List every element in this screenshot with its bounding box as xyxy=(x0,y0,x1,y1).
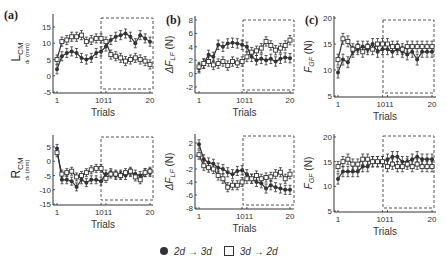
y-tick-label: 2 xyxy=(189,56,194,65)
open-square-marker xyxy=(254,174,258,178)
filled-circle-marker xyxy=(226,41,230,45)
legend-label-2d-to-3d: 2d → 3d xyxy=(174,246,212,257)
open-square-marker xyxy=(133,175,137,179)
panel-label-a: (a) xyxy=(4,8,18,22)
y-axis-label: ΔFLF (N) xyxy=(164,36,176,75)
y-tick-label: -6 xyxy=(186,191,194,200)
open-square-marker xyxy=(395,165,399,169)
open-square-marker xyxy=(114,172,118,176)
filled-circle-marker xyxy=(99,49,103,53)
filled-circle-marker xyxy=(415,58,419,62)
open-square-marker xyxy=(341,37,345,41)
open-square-marker xyxy=(240,60,244,64)
filled-circle-marker xyxy=(94,51,98,55)
filled-circle-marker xyxy=(119,33,123,37)
filled-circle-marker xyxy=(124,32,128,36)
open-square-marker xyxy=(288,172,292,176)
open-square-marker xyxy=(274,48,278,52)
open-square-marker xyxy=(202,164,206,168)
filled-circle-marker xyxy=(420,157,424,161)
chart-a-top: 151050-51101120Trialsdₜ (mm) xyxy=(24,14,155,118)
open-square-marker xyxy=(89,168,93,172)
filled-circle-marker xyxy=(128,35,132,39)
filled-circle-marker xyxy=(138,33,142,37)
open-square-marker xyxy=(148,62,152,66)
y-tick-label: -15 xyxy=(39,200,51,209)
filled-circle-marker xyxy=(84,58,88,62)
y-tick-label: -2 xyxy=(186,83,194,92)
filled-circle-marker xyxy=(202,157,206,161)
open-square-marker xyxy=(79,174,83,178)
y-tick-label: 10 xyxy=(323,66,332,75)
chart-b-top: 86420-21101120TrialsΔFLF (N) xyxy=(164,16,295,118)
x-tick-label: 1011 xyxy=(95,208,113,217)
filled-circle-marker xyxy=(390,155,394,159)
open-square-marker xyxy=(65,171,69,175)
x-axis-label: Trials xyxy=(232,223,256,234)
filled-circle-marker xyxy=(216,43,220,47)
open-square-marker xyxy=(381,160,385,164)
open-square-marker xyxy=(425,165,429,169)
open-square-marker xyxy=(70,169,74,173)
x-tick-label: 20 xyxy=(286,96,295,105)
open-square-marker xyxy=(104,176,108,180)
open-square-marker xyxy=(240,180,244,184)
filled-circle-marker xyxy=(84,181,88,185)
open-square-marker xyxy=(259,46,263,50)
legend: 2d → 3d 3d → 2d xyxy=(160,243,278,259)
open-square-marker xyxy=(211,167,215,171)
filled-circle-marker xyxy=(341,58,345,62)
y-tick-label: 0 xyxy=(47,157,52,166)
open-square-marker xyxy=(221,177,225,181)
x-axis-label: Trials xyxy=(232,107,256,118)
filled-circle-marker xyxy=(235,41,239,45)
filled-circle-marker xyxy=(133,41,137,45)
open-square-marker xyxy=(405,45,409,49)
y-tick-label: 2 xyxy=(189,139,194,148)
filled-circle-marker xyxy=(341,170,345,174)
open-square-marker xyxy=(94,166,98,170)
open-square-marker xyxy=(254,49,258,53)
row-label-lcm: LCM xyxy=(9,42,25,61)
panel-label-b: (b) xyxy=(166,13,181,27)
y-tick-label: -5 xyxy=(44,88,52,97)
open-square-marker xyxy=(269,43,273,47)
filled-circle-marker xyxy=(75,185,79,189)
y-tick-label: 5 xyxy=(328,207,333,216)
row-label-rcm: RCM xyxy=(9,157,25,178)
y-tick-label: 0 xyxy=(189,152,194,161)
open-square-marker xyxy=(148,169,152,173)
filled-circle-marker xyxy=(283,188,287,192)
open-square-marker xyxy=(269,175,273,179)
open-square-marker xyxy=(278,170,282,174)
y-tick-label: 6 xyxy=(189,29,194,38)
filled-circle-marker xyxy=(254,180,258,184)
x-tick-label: 1011 xyxy=(236,96,254,105)
y-tick-label: 8 xyxy=(189,16,194,25)
open-square-marker xyxy=(55,151,59,155)
y-tick-label: -5 xyxy=(44,172,52,181)
open-square-marker xyxy=(138,178,142,182)
open-square-marker xyxy=(264,175,268,179)
open-square-marker xyxy=(84,40,88,44)
filled-circle-marker xyxy=(356,170,360,174)
filled-circle-marker xyxy=(361,165,365,169)
open-square-marker xyxy=(128,58,132,62)
x-tick-label: 1011 xyxy=(95,96,113,105)
x-tick-label: 1 xyxy=(336,100,341,109)
open-square-marker xyxy=(283,177,287,181)
filled-circle-marker xyxy=(94,178,98,182)
chart-c-bottom: 20151051101120TrialsFGF (N) xyxy=(303,133,437,237)
filled-circle-marker xyxy=(425,157,429,161)
open-square-marker xyxy=(104,40,108,44)
open-square-marker xyxy=(385,42,389,46)
chart-a-bottom: 50-5-10-151101120Trialsdₜ (mm) xyxy=(24,135,155,230)
filled-circle-marker xyxy=(240,168,244,172)
y-tick-label: -8 xyxy=(186,204,194,213)
open-square-marker xyxy=(109,172,113,176)
open-square-marker xyxy=(356,45,360,49)
x-tick-label: 20 xyxy=(428,215,437,224)
open-square-marker xyxy=(400,165,404,169)
open-square-marker-icon xyxy=(224,246,234,256)
y-tick-label: 20 xyxy=(323,14,332,23)
